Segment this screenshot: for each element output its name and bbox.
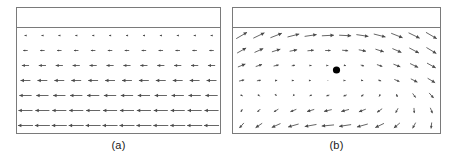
vector-arrow: [103, 109, 117, 113]
vector-arrow: [21, 79, 31, 83]
vector-arrow: [344, 64, 346, 66]
panel-b: [232, 7, 441, 134]
panel-a-caption: (a): [16, 139, 221, 151]
vector-arrow: [139, 79, 149, 83]
vector-arrow: [275, 80, 277, 82]
vector-arrow: [88, 79, 98, 83]
vector-arrow: [378, 79, 381, 81]
vector-arrow: [374, 34, 386, 38]
vector-arrow: [239, 79, 244, 81]
vector-arrow: [25, 34, 27, 36]
vector-arrow: [256, 64, 262, 67]
vector-arrow: [274, 109, 279, 112]
vector-arrow: [375, 49, 383, 52]
vector-arrow: [208, 64, 215, 67]
vector-arrow: [428, 78, 436, 83]
vector-arrow: [257, 109, 260, 112]
vector-arrow: [140, 64, 147, 67]
vector-arrow: [426, 48, 436, 54]
vector-arrow: [288, 33, 300, 37]
vector-arrow: [90, 64, 97, 67]
vector-arrow: [256, 123, 263, 128]
vector-arrow: [305, 124, 317, 127]
vector-arrow: [103, 124, 118, 128]
vector-arrow: [236, 32, 247, 38]
vector-arrow: [326, 64, 328, 66]
vector-arrow: [327, 80, 328, 81]
vector-arrow: [121, 94, 133, 98]
vector-arrow: [18, 124, 33, 128]
vector-arrow: [75, 34, 77, 36]
vector-arrow: [125, 49, 129, 51]
panel-a-vector-field: [17, 28, 220, 133]
vector-arrow: [105, 79, 115, 83]
vector-arrow: [344, 79, 346, 81]
vector-arrow: [171, 109, 185, 113]
vector-arrow: [173, 79, 183, 83]
vector-arrow: [159, 49, 164, 51]
vector-arrow: [257, 79, 261, 81]
vector-arrow: [377, 64, 382, 66]
vector-arrow: [205, 94, 217, 98]
vector-arrow: [153, 124, 168, 128]
vector-arrow: [92, 34, 94, 36]
vector-arrow: [191, 64, 198, 67]
vector-arrow: [207, 79, 217, 83]
vector-arrow: [361, 94, 364, 96]
vector-arrow: [292, 79, 294, 81]
vector-arrow: [18, 109, 32, 113]
vector-arrow: [356, 34, 368, 37]
vector-arrow: [209, 49, 214, 51]
vector-arrow: [154, 109, 168, 113]
vector-arrow: [288, 124, 299, 128]
panel-b-vector-field: [233, 28, 440, 133]
vector-arrow: [413, 123, 416, 129]
vector-arrow: [339, 34, 351, 38]
vector-arrow: [375, 123, 384, 127]
vector-arrow: [394, 79, 399, 81]
vector-arrow: [155, 94, 167, 98]
vector-arrow: [396, 108, 398, 113]
vector-arrow: [35, 109, 49, 113]
vector-arrow: [177, 34, 179, 36]
vector-arrow: [322, 124, 334, 128]
vector-arrow: [109, 34, 111, 36]
vector-arrow: [160, 34, 162, 36]
vector-arrow: [272, 124, 281, 128]
vector-arrow: [426, 32, 437, 38]
vector-arrow: [341, 109, 349, 112]
vector-arrow: [274, 94, 276, 96]
vector-arrow: [122, 79, 132, 83]
vector-arrow: [326, 94, 329, 96]
vector-arrow: [23, 49, 28, 51]
vector-arrow: [172, 94, 184, 98]
vector-arrow: [239, 123, 244, 128]
vector-arrow: [293, 94, 295, 96]
vector-arrow: [40, 49, 45, 51]
vector-arrow: [379, 94, 381, 96]
vector-arrow: [69, 124, 84, 128]
vector-arrow: [290, 109, 296, 112]
vector-arrow: [87, 94, 99, 98]
vector-arrow: [86, 109, 100, 113]
vector-arrow: [357, 124, 368, 128]
singular-point-marker: [333, 66, 340, 73]
vector-arrow: [52, 124, 67, 128]
vector-arrow: [157, 64, 164, 67]
vector-arrow: [142, 49, 147, 51]
vector-arrow: [361, 64, 364, 66]
vector-arrow: [427, 63, 436, 68]
vector-arrow: [359, 49, 366, 52]
vector-arrow: [253, 33, 264, 39]
panel-b-caption: (b): [232, 139, 441, 151]
vector-arrow: [211, 34, 213, 36]
vector-arrow: [322, 34, 334, 38]
vector-arrow: [188, 94, 200, 98]
figure-root: (a) (b): [0, 0, 453, 160]
vector-arrow: [396, 94, 398, 97]
vector-arrow: [410, 64, 418, 68]
vector-arrow: [108, 49, 113, 51]
vector-arrow: [413, 108, 415, 113]
vector-arrow: [69, 109, 83, 113]
vector-arrow: [430, 108, 432, 113]
